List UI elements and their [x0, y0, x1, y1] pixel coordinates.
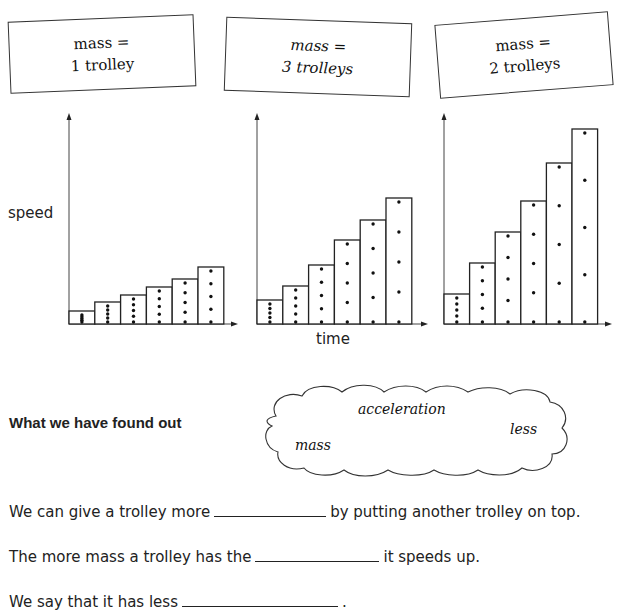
ticker-dot [371, 296, 374, 299]
ticker-dot [506, 277, 509, 280]
ticker-dot [455, 314, 458, 317]
ticker-dot [294, 296, 297, 299]
sentence-1-before: We can give a trolley more [9, 503, 210, 521]
ticker-dot [183, 291, 186, 294]
ticker-dot [481, 279, 484, 282]
ticker-dot [481, 307, 484, 310]
ticker-dot [320, 307, 323, 310]
ticker-dot [209, 269, 212, 272]
ticker-dot [481, 265, 484, 268]
ticker-dot [183, 311, 186, 314]
ticker-dot [320, 267, 323, 270]
ticker-dot [80, 313, 83, 316]
y-axis-arrow-icon [442, 113, 447, 120]
ticker-dot [506, 256, 509, 259]
answer-blank-1[interactable] [214, 502, 326, 517]
y-axis-arrow-icon [67, 113, 72, 120]
ticker-dot [294, 320, 297, 323]
ticker-dot [183, 320, 186, 323]
speed-time-charts [0, 0, 620, 360]
ticker-dot [481, 293, 484, 296]
ticker-dot [132, 320, 135, 323]
ticker-dot [346, 242, 349, 245]
ticker-dot [209, 308, 212, 311]
ticker-dot [320, 294, 323, 297]
ticker-dot [558, 243, 561, 246]
ticker-dot [320, 281, 323, 284]
ticker-dot [371, 222, 374, 225]
ticker-dot [583, 320, 586, 323]
ticker-dot [583, 273, 586, 276]
ticker-dot [294, 288, 297, 291]
ticker-dot [506, 234, 509, 237]
sentence-3: We say that it has less. [9, 592, 347, 610]
ticker-dot [158, 313, 161, 316]
section-heading: What we have found out [9, 414, 182, 431]
ticker-dot [455, 302, 458, 305]
ticker-dot [346, 262, 349, 265]
sentence-3-before: We say that it has less [9, 593, 178, 610]
ticker-dot [455, 320, 458, 323]
ticker-dot [455, 296, 458, 299]
ticker-dot [268, 316, 271, 319]
ticker-dot [397, 200, 400, 203]
x-axis-label: time [316, 330, 350, 348]
sentence-1-after: by putting another trolley on top. [330, 503, 580, 521]
ticker-dot [132, 309, 135, 312]
ticker-dot [183, 301, 186, 304]
answer-blank-3[interactable] [182, 592, 338, 607]
ticker-dot [106, 320, 109, 323]
ticker-dot [132, 297, 135, 300]
ticker-dot [481, 320, 484, 323]
ticker-dot [532, 320, 535, 323]
x-axis-arrow-icon [231, 322, 238, 327]
ticker-dot [532, 291, 535, 294]
ticker-dot [397, 290, 400, 293]
ticker-dot [209, 320, 212, 323]
ticker-dot [558, 165, 561, 168]
ticker-dot [532, 233, 535, 236]
ticker-dot [583, 131, 586, 134]
y-axis-label: speed [8, 204, 53, 222]
sentence-2: The more mass a trolley has theit speeds… [9, 547, 480, 566]
ticker-dot [106, 312, 109, 315]
sentence-2-before: The more mass a trolley has the [9, 548, 251, 566]
ticker-dot [455, 308, 458, 311]
ticker-dot [583, 179, 586, 182]
ticker-dot [132, 315, 135, 318]
word-acceleration: acceleration [358, 401, 446, 417]
word-mass: mass [295, 437, 331, 453]
ticker-dot [106, 308, 109, 311]
x-axis-arrow-icon [421, 322, 428, 327]
ticker-dot [294, 312, 297, 315]
ticker-dot [506, 299, 509, 302]
ticker-dot [320, 320, 323, 323]
ticker-dot [158, 289, 161, 292]
y-axis-arrow-icon [255, 113, 260, 120]
answer-blank-2[interactable] [255, 547, 379, 562]
word-less: less [510, 421, 537, 437]
ticker-dot [183, 281, 186, 284]
ticker-dot [346, 281, 349, 284]
ticker-dot [209, 295, 212, 298]
ticker-dot [158, 297, 161, 300]
sentence-1: We can give a trolley moreby putting ano… [9, 502, 580, 521]
ticker-dot [158, 305, 161, 308]
ticker-dot [532, 262, 535, 265]
ticker-dot [371, 320, 374, 323]
ticker-dot [158, 320, 161, 323]
ticker-dot [346, 320, 349, 323]
ticker-dot [532, 203, 535, 206]
ticker-dot [268, 320, 271, 323]
sentence-2-after: it speeds up. [383, 548, 480, 566]
ticker-dot [268, 307, 271, 310]
ticker-dot [268, 311, 271, 314]
ticker-dot [558, 320, 561, 323]
ticker-dot [583, 226, 586, 229]
ticker-dot [371, 247, 374, 250]
ticker-dot [371, 271, 374, 274]
ticker-dot [558, 282, 561, 285]
ticker-dot [106, 316, 109, 319]
x-axis-arrow-icon [605, 322, 612, 327]
ticker-dot [209, 282, 212, 285]
